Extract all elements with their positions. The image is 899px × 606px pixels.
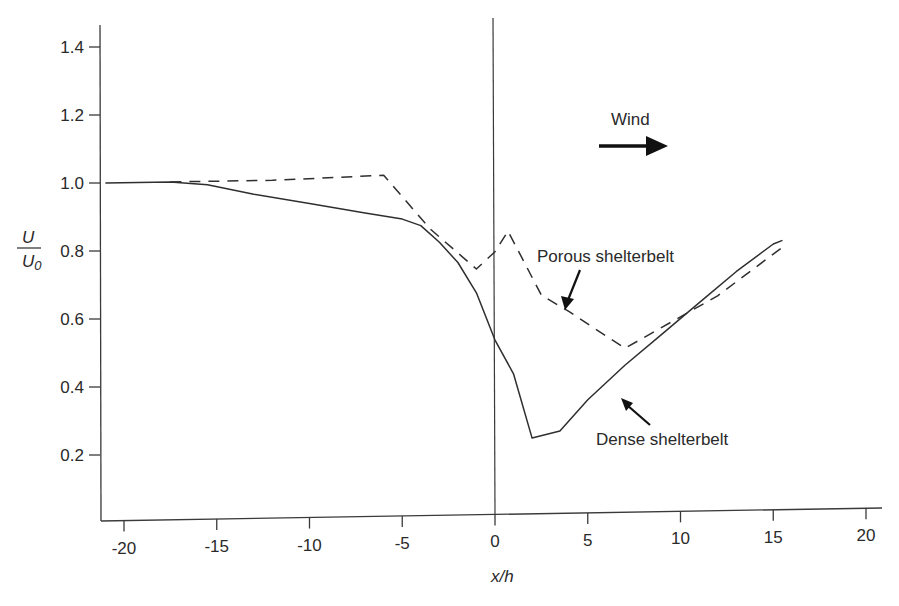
y-tick-label: 1.4 <box>60 38 84 57</box>
x-axis-label: x/h <box>490 567 514 586</box>
y-tick-label: 0.4 <box>60 378 84 397</box>
data-series <box>105 175 782 438</box>
x-tick-label: 5 <box>583 531 592 550</box>
y-tick-label: 0.6 <box>60 310 84 329</box>
porous-shelterbelt-label: Porous shelterbelt <box>537 247 674 266</box>
x-tick-label: 10 <box>671 529 690 548</box>
y-tick-label: 0.8 <box>60 242 84 261</box>
y-axis-line <box>100 25 101 521</box>
y-label-denominator: U0 <box>22 252 42 273</box>
dense-arrow-icon <box>621 398 650 425</box>
dense-shelterbelt-label: Dense shelterbelt <box>596 430 729 449</box>
x-axis-line <box>101 508 882 521</box>
dense-shelterbelt-line <box>105 182 782 438</box>
porous-shelterbelt-line <box>170 175 782 348</box>
y-tick-label: 0.2 <box>60 446 84 465</box>
wind-arrow-icon <box>599 136 668 156</box>
axes <box>100 18 882 521</box>
shelterbelt-reference-line <box>493 18 495 515</box>
x-tick-label: 20 <box>857 526 876 545</box>
x-tick-label: -20 <box>112 539 137 558</box>
x-tick-label: -15 <box>204 537 229 556</box>
y-axis-label: U U0 <box>17 228 42 273</box>
porous-arrow-icon <box>561 270 580 310</box>
axis-ticks: 0.20.40.60.81.01.21.4-20-15-10-505101520 <box>60 38 875 558</box>
y-tick-label: 1.2 <box>60 106 84 125</box>
x-tick-label: 0 <box>490 532 499 551</box>
x-tick-label: 15 <box>764 528 783 547</box>
y-tick-label: 1.0 <box>60 174 84 193</box>
x-tick-label: -5 <box>395 534 410 553</box>
shelterbelt-wind-speed-chart: 0.20.40.60.81.01.21.4-20-15-10-505101520… <box>0 0 899 606</box>
wind-label: Wind <box>611 110 650 129</box>
y-label-numerator: U <box>22 228 35 247</box>
x-tick-label: -10 <box>297 536 322 555</box>
